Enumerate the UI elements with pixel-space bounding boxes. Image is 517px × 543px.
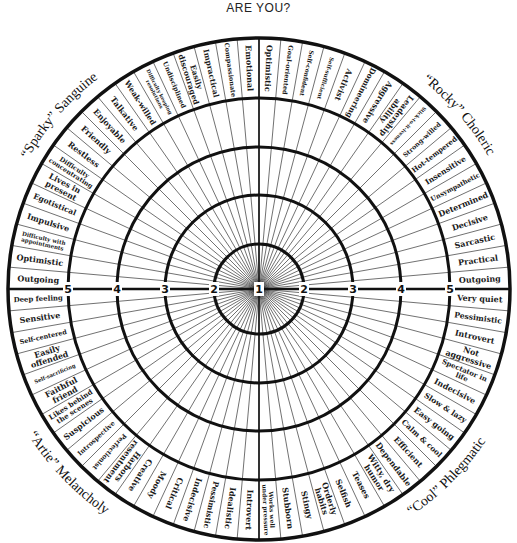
spoke-line	[153, 62, 259, 289]
trait-label: Difficulty withappointments	[20, 231, 66, 253]
trait-label: Works wellunder pressure	[260, 484, 277, 536]
trait-label: Idealistic	[223, 487, 238, 530]
trait-label: Emotional	[244, 45, 256, 91]
scale-number-left-4: 4	[113, 283, 121, 296]
scale-number-left-5: 5	[64, 283, 72, 296]
scale-number-left-3: 3	[161, 283, 169, 296]
spoke-line	[153, 289, 259, 516]
spoke-line	[259, 289, 486, 395]
trait-label: Goal-oriented	[280, 45, 294, 96]
quadrant-title-top-left: “Sparky” Sanguine	[18, 69, 100, 161]
trait-label: Self-sufficient	[316, 56, 335, 100]
spoke-line	[259, 289, 365, 516]
trait-label: Activist	[333, 66, 356, 102]
trait-label: Self-centered	[19, 328, 68, 346]
trait-label: Outgoing	[17, 273, 60, 285]
spoke-line	[32, 183, 259, 289]
trait-label: Very quiet	[456, 292, 503, 304]
trait-label: Critical	[164, 476, 186, 511]
trait-label: Practical	[458, 252, 499, 267]
scale-number-1: 1	[255, 283, 263, 296]
trait-label: Deep feeling	[13, 293, 63, 304]
trait-label: Optimistic	[263, 45, 275, 92]
trait-label: Sarcastic	[453, 232, 496, 251]
scale-number-right-2: 2	[300, 283, 308, 296]
trait-label: Orderlyhabits	[312, 481, 340, 519]
scale-number-right-4: 4	[397, 283, 405, 296]
scale-number-right-3: 3	[349, 283, 357, 296]
spoke-line	[259, 164, 476, 290]
scale-numbers: 122334455	[63, 282, 455, 296]
trait-label: Introvert	[244, 489, 256, 530]
trait-label: Sensitive	[19, 310, 61, 325]
spoke-line	[134, 289, 260, 506]
spoke-line	[259, 62, 365, 289]
scale-number-right-5: 5	[446, 283, 454, 296]
quadrant-title-top-right: “Rocky” Choleric	[421, 71, 499, 158]
trait-label: Pessimistic	[454, 310, 503, 325]
trait-label: Stubborn	[280, 487, 295, 530]
spoke-line	[259, 72, 385, 289]
spoke-line	[259, 183, 486, 289]
trait-label: Moody	[146, 470, 169, 501]
temperament-wheel: 122334455 OptimisticGoal-orientedSelf-co…	[0, 0, 517, 543]
spoke-line	[42, 289, 259, 415]
scale-number-left-2: 2	[210, 283, 218, 296]
trait-label: Self-confident	[299, 50, 316, 97]
quadrant-title-bottom-left: “Artie” Melancholy	[26, 428, 112, 517]
spoke-line	[259, 289, 385, 506]
trait-label: Compassionate	[222, 42, 237, 97]
trait-label: Decisive	[450, 212, 489, 233]
trait-label: Impulsive	[26, 211, 71, 234]
trait-label: Stingy	[299, 490, 315, 520]
spoke-line	[259, 289, 476, 415]
trait-label: Optimistic	[16, 252, 64, 268]
trait-label: Outgoing	[459, 273, 502, 285]
